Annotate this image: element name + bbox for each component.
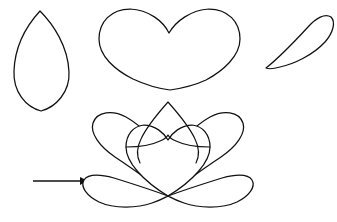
pointed-petal-shape xyxy=(14,11,69,111)
lotus-drawing-svg xyxy=(0,0,337,222)
drawing-canvas: Lotus Flower Drawing Steps How to draw a… xyxy=(0,0,337,222)
step-arrow xyxy=(33,177,88,185)
lotus-flower-assembly xyxy=(83,102,253,207)
heart-shape xyxy=(99,9,240,90)
teardrop-petal-shape xyxy=(266,16,333,69)
